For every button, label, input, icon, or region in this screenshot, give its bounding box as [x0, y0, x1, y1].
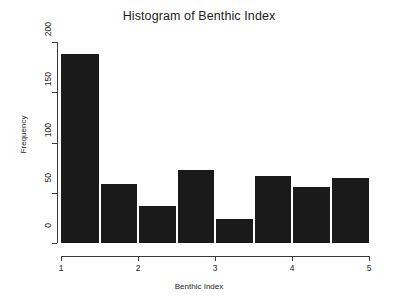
histogram-bar	[177, 170, 216, 243]
x-axis-tick-label: 2	[123, 263, 153, 273]
histogram-bar	[254, 176, 293, 243]
x-axis-tick	[61, 256, 62, 261]
x-axis-tick-label: 5	[354, 263, 384, 273]
y-axis-tick-label: 50	[28, 187, 68, 199]
histogram-plot: Histogram of Benthic Index 050100150200 …	[0, 0, 398, 298]
y-axis-tick-label-text: 200	[42, 22, 54, 62]
y-axis-tick-label-text: 0	[42, 223, 54, 263]
x-axis-title: Benthic Index	[0, 282, 398, 291]
histogram-bar	[61, 54, 100, 243]
y-axis-tick-label-text: 150	[42, 72, 54, 112]
x-axis-tick	[138, 256, 139, 261]
x-axis-tick	[369, 256, 370, 261]
x-axis-tick-label: 4	[277, 263, 307, 273]
x-axis-tick-label: 1	[46, 263, 76, 273]
x-axis-tick	[292, 256, 293, 261]
histogram-bar	[331, 178, 370, 243]
y-axis-tick-label-text: 50	[42, 173, 54, 213]
y-axis-title: Frequency	[19, 105, 28, 165]
histogram-bar	[100, 184, 139, 243]
chart-title: Histogram of Benthic Index	[0, 9, 398, 23]
plot-area	[61, 42, 369, 243]
histogram-bar	[215, 219, 254, 243]
histogram-bar	[138, 206, 177, 243]
y-axis-tick-label: 0	[28, 237, 68, 249]
histogram-bar	[292, 187, 331, 243]
x-axis-tick-label: 3	[200, 263, 230, 273]
x-axis-tick	[215, 256, 216, 261]
y-axis-tick-label: 100	[28, 137, 68, 149]
y-axis-tick-label-text: 100	[42, 123, 54, 163]
y-axis-tick-label: 200	[28, 36, 68, 48]
y-axis-tick-label: 150	[28, 86, 68, 98]
